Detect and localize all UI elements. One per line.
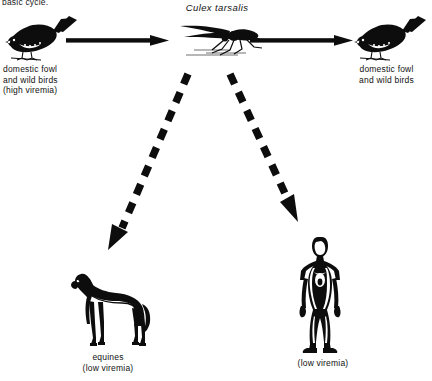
- human-figure-icon: [296, 236, 350, 354]
- horse-icon: [60, 268, 156, 350]
- human-caption: (low viremia): [273, 358, 373, 369]
- human-caption-line-1: (low viremia): [273, 358, 373, 369]
- bird-right-caption: domestic fowl and wild birds: [341, 64, 432, 85]
- mosquito-species-label: Culex tarsalis: [177, 2, 257, 13]
- bird-left-caption-line-1: domestic fowl: [3, 64, 99, 75]
- arrow-mosquito-to-equines: [100, 68, 200, 253]
- bird-right-caption-line-1: domestic fowl: [341, 64, 432, 75]
- horse-caption-line-2: (low viremia): [58, 363, 158, 374]
- horse-caption-line-1: equines: [58, 352, 158, 363]
- diagram-canvas: basic cycle.: [0, 0, 432, 381]
- arrow-mosquito-to-bird: [250, 33, 354, 49]
- figure-top-caption: basic cycle.: [2, 0, 122, 7]
- figure-top-caption-text: basic cycle.: [2, 0, 122, 7]
- bird-left-caption-line-3: (high viremia): [3, 85, 99, 96]
- bird-left-caption-line-2: and wild birds: [3, 75, 99, 86]
- arrow-bird-to-mosquito: [66, 33, 170, 49]
- bird-right-caption-line-2: and wild birds: [341, 75, 432, 86]
- bird-left-caption: domestic fowl and wild birds (high virem…: [3, 64, 99, 96]
- bird-silhouette-icon: [352, 14, 430, 60]
- horse-caption: equines (low viremia): [58, 352, 158, 373]
- arrow-mosquito-to-human: [218, 68, 318, 226]
